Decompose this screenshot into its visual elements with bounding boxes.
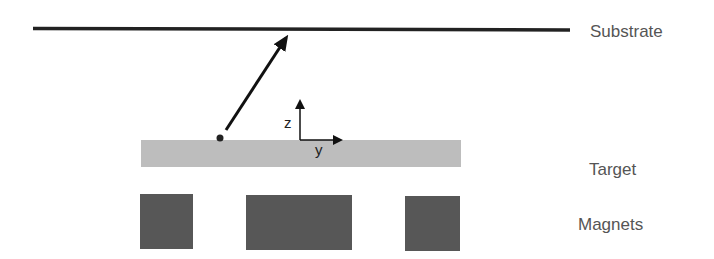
magnet-left — [140, 194, 193, 249]
target-bar — [141, 140, 461, 167]
particle-dot — [217, 135, 224, 142]
substrate-line — [33, 29, 570, 31]
substrate-label: Substrate — [590, 22, 663, 42]
z-axis-label: z — [284, 114, 292, 131]
magnet-center — [246, 195, 352, 250]
magnets-label: Magnets — [578, 215, 643, 235]
trajectory-arrow — [226, 38, 286, 130]
y-axis-label: y — [315, 141, 323, 158]
magnet-right — [405, 196, 460, 251]
target-label: Target — [589, 160, 636, 180]
